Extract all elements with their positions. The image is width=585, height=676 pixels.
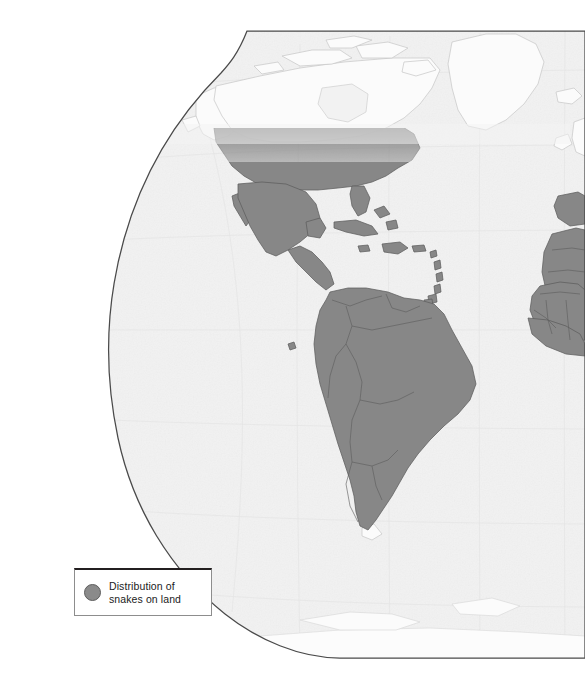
- filled-circle-icon: [84, 584, 101, 601]
- map-legend: Distribution of snakes on land: [74, 568, 212, 616]
- distribution-map-figure: Distribution of snakes on land: [0, 0, 585, 676]
- puerto-rico-shading: [412, 245, 426, 252]
- antarctica-outline: [190, 628, 585, 676]
- jamaica-shading: [358, 245, 370, 252]
- fade-band-veil: [150, 124, 570, 144]
- legend-label: Distribution of snakes on land: [109, 580, 181, 606]
